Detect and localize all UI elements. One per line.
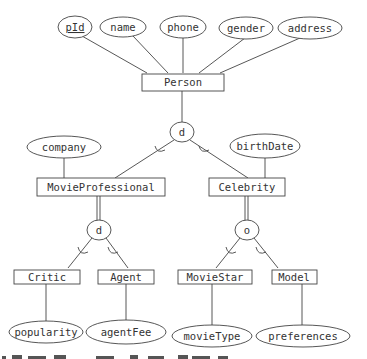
agent-label: Agent <box>110 271 142 283</box>
attribute-address: address <box>278 17 342 39</box>
subset-symbol-icon <box>256 247 266 253</box>
specialization-overlap-celebrity: o <box>235 220 259 240</box>
entity-celebrity: Celebrity <box>209 178 285 196</box>
model-label: Model <box>278 271 310 283</box>
pid-connector <box>82 36 147 73</box>
spec-to-critic-line <box>68 238 92 268</box>
entity-person: Person <box>142 74 224 91</box>
person-label: Person <box>164 76 202 88</box>
subset-symbol-icon <box>78 247 88 253</box>
attribute-name: name <box>100 17 146 37</box>
entity-critic: Critic <box>14 270 80 284</box>
attribute-gender: gender <box>219 17 273 39</box>
spec-to-movieprof-line <box>115 140 174 178</box>
company-label: company <box>42 141 86 153</box>
entity-movieprofessional: MovieProfessional <box>37 178 165 196</box>
celebrity-label: Celebrity <box>219 181 276 193</box>
movietype-label: movieType <box>184 330 241 342</box>
specialization-disjoint-movieprofessional: d <box>87 220 111 240</box>
birthdate-label: birthDate <box>237 140 294 152</box>
agentfee-label: agentFee <box>101 326 152 338</box>
name-label: name <box>110 21 135 33</box>
attribute-company: company <box>27 136 101 158</box>
attribute-pid: pId <box>58 16 92 38</box>
attribute-preferences: preferences <box>256 325 350 347</box>
attribute-agentfee: agentFee <box>86 320 166 344</box>
eer-diagram: pId name phone gender address Person d c… <box>0 0 367 359</box>
moviestar-label: MovieStar <box>187 271 244 283</box>
movieprofessional-label: MovieProfessional <box>47 181 154 193</box>
movieprof-spec-label: d <box>96 224 102 236</box>
address-connector <box>220 38 300 73</box>
phone-label: phone <box>167 21 199 33</box>
pid-label: pId <box>66 21 85 33</box>
celebrity-spec-label: o <box>244 224 250 236</box>
spec-to-moviestar-line <box>216 238 240 268</box>
spec-to-model-line <box>254 238 278 268</box>
gender-label: gender <box>227 22 265 34</box>
entity-model: Model <box>272 270 317 284</box>
entity-agent: Agent <box>98 270 154 284</box>
spec-to-agent-line <box>106 238 128 268</box>
subset-symbol-icon <box>226 247 236 253</box>
gender-connector <box>199 38 245 73</box>
specialization-disjoint-person: d <box>170 122 194 142</box>
popularity-label: popularity <box>14 326 77 338</box>
attribute-birthdate: birthDate <box>230 134 300 158</box>
attribute-popularity: popularity <box>9 321 83 343</box>
attribute-phone: phone <box>160 16 206 38</box>
entity-moviestar: MovieStar <box>178 270 252 284</box>
address-label: address <box>288 22 332 34</box>
person-spec-label: d <box>179 126 185 138</box>
name-connector <box>133 36 168 73</box>
critic-label: Critic <box>28 271 66 283</box>
preferences-label: preferences <box>268 330 338 342</box>
attribute-movietype: movieType <box>172 325 252 347</box>
caption-fragment <box>2 355 228 359</box>
